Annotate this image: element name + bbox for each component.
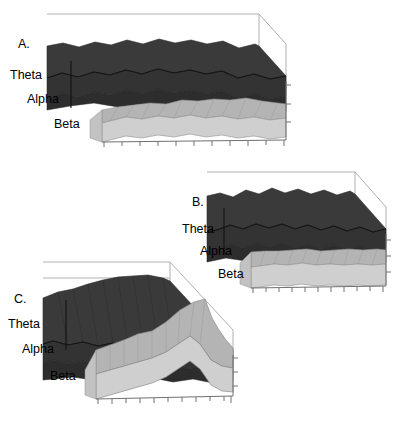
panel-b-right-axis <box>386 234 391 286</box>
panel-b-beta-band <box>240 249 386 288</box>
panel-a-label: A. <box>18 37 30 51</box>
panel-b-theta-label: Theta <box>182 222 214 236</box>
panel-b: B. Theta Alpha Beta <box>182 172 391 293</box>
panel-c: C. Theta Alpha Beta <box>8 262 238 404</box>
panel-b-label: B. <box>192 195 204 209</box>
panel-b-alpha-label: Alpha <box>200 244 232 258</box>
panel-b-beta-label: Beta <box>218 267 244 281</box>
panel-a-right-axis <box>286 81 291 140</box>
panel-c-label: C. <box>14 292 27 306</box>
panel-c-theta-label: Theta <box>8 317 40 331</box>
panel-c-x-axis <box>96 396 233 404</box>
panel-c-beta-label: Beta <box>50 369 76 383</box>
panel-a-theta-label: Theta <box>10 68 42 82</box>
panel-b-x-axis <box>251 286 386 293</box>
panel-a-x-axis <box>102 140 286 147</box>
panel-a-alpha-label: Alpha <box>27 92 59 106</box>
panel-a: A. Theta Alpha Beta <box>10 14 291 147</box>
panel-b-theta-band <box>207 188 386 251</box>
panel-c-alpha-label: Alpha <box>22 342 54 356</box>
panel-a-beta-label: Beta <box>54 117 80 131</box>
panel-a-theta-band <box>47 39 286 99</box>
panel-c-right-axis <box>233 355 238 396</box>
eeg-band-figure: A. Theta Alpha Beta <box>0 0 412 433</box>
